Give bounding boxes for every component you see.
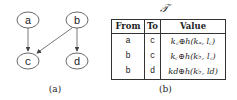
node-d-label: d [74,56,81,68]
cell-value: kd⊕h(k♭, ld) [161,64,226,80]
node-b-label: b [74,15,81,27]
header-value: Value [161,20,226,34]
node-b: b [66,12,88,28]
cell-from: b [112,64,145,80]
header-from: From [112,20,145,34]
cell-value: k꜀⊕h(k♭, l꜀) [161,49,226,64]
node-c-label: c [25,56,32,68]
header-to: To [145,20,161,34]
cell-to: d [145,64,161,80]
edge-b-c [37,28,72,53]
table-row: b c k꜀⊕h(k♭, l꜀) [112,49,226,64]
caption-a: (a) [49,84,61,94]
cell-to: c [145,49,161,64]
node-c: c [17,53,39,69]
node-a: a [17,12,39,28]
table-row: b d kd⊕h(k♭, ld) [112,64,226,80]
table-row: a c k꜀⊕h(kₐ, l꜀) [112,34,226,50]
cell-from: a [112,34,145,50]
node-d: d [66,53,88,69]
cell-value: k꜀⊕h(kₐ, l꜀) [161,34,226,50]
table-title: 𝒯 [160,2,168,15]
cell-to: c [145,34,161,50]
caption-b: (b) [159,84,172,94]
mapping-table: From To Value a c k꜀⊕h(kₐ, l꜀) b c k꜀⊕h(… [111,19,226,80]
table-header-row: From To Value [112,20,226,34]
cell-from: b [112,49,145,64]
node-a-label: a [25,15,32,27]
